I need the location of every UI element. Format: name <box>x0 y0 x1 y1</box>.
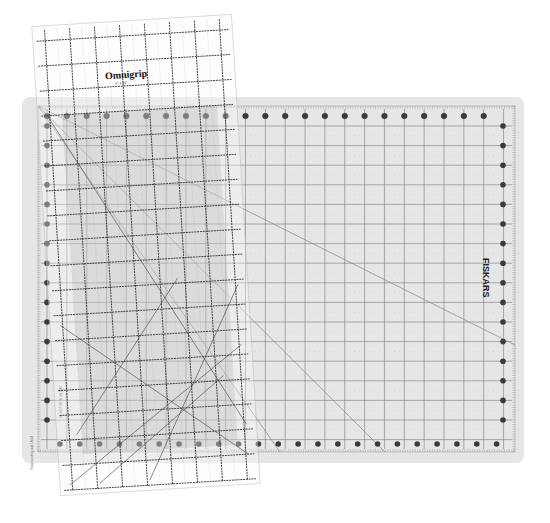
cutting-mat-photo: FISKARS Fiskars cutting mat 18x24 DO NOT… <box>0 0 550 523</box>
mat-side-label: Fiskars cutting mat 18x24 <box>30 435 34 470</box>
omnigrip-ruler[interactable]: Omnigrip 6" x 24" <box>32 14 260 495</box>
ruler-size-label: 6" x 24" <box>115 81 128 86</box>
mat-brand-logo: FISKARS <box>481 258 491 298</box>
ruler-shading <box>62 105 237 454</box>
